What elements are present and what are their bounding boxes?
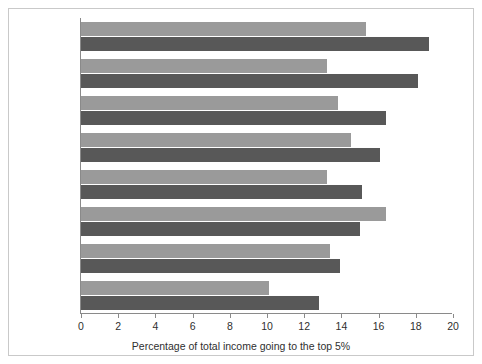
bar — [81, 170, 327, 184]
x-tick-label: 6 — [190, 320, 196, 332]
x-tick — [453, 314, 454, 318]
x-tick-label: 14 — [336, 320, 348, 332]
bar — [81, 259, 340, 273]
x-tick-label: 8 — [227, 320, 233, 332]
x-tick — [118, 314, 119, 318]
x-tick — [304, 314, 305, 318]
x-tick — [155, 314, 156, 318]
x-tick-label: 10 — [261, 320, 273, 332]
bar — [81, 133, 351, 147]
bar — [81, 185, 362, 199]
x-tick-label: 20 — [447, 320, 459, 332]
bar — [81, 37, 429, 51]
x-tick — [341, 314, 342, 318]
bar — [81, 111, 386, 125]
bar — [81, 59, 327, 73]
bar — [81, 22, 366, 36]
x-tick-label: 0 — [78, 320, 84, 332]
x-tick-label: 18 — [410, 320, 422, 332]
x-tick — [416, 314, 417, 318]
x-tick — [230, 314, 231, 318]
bar — [81, 96, 338, 110]
bar — [81, 296, 319, 310]
x-tick — [81, 314, 82, 318]
x-tick — [379, 314, 380, 318]
x-tick — [267, 314, 268, 318]
x-tick-label: 16 — [373, 320, 385, 332]
x-tick-label: 4 — [152, 320, 158, 332]
x-axis-title: Percentage of total income going to the … — [0, 340, 482, 352]
bar — [81, 244, 330, 258]
x-tick-label: 2 — [115, 320, 121, 332]
bar — [81, 207, 386, 221]
bar-chart: USAUKAustraliaCanadaGermanySpainNetherla… — [0, 0, 482, 364]
bar — [81, 222, 360, 236]
plot-area: USAUKAustraliaCanadaGermanySpainNetherla… — [80, 18, 452, 314]
x-tick-label: 12 — [298, 320, 310, 332]
bar — [81, 148, 380, 162]
x-tick — [193, 314, 194, 318]
bar — [81, 281, 269, 295]
bar — [81, 74, 418, 88]
